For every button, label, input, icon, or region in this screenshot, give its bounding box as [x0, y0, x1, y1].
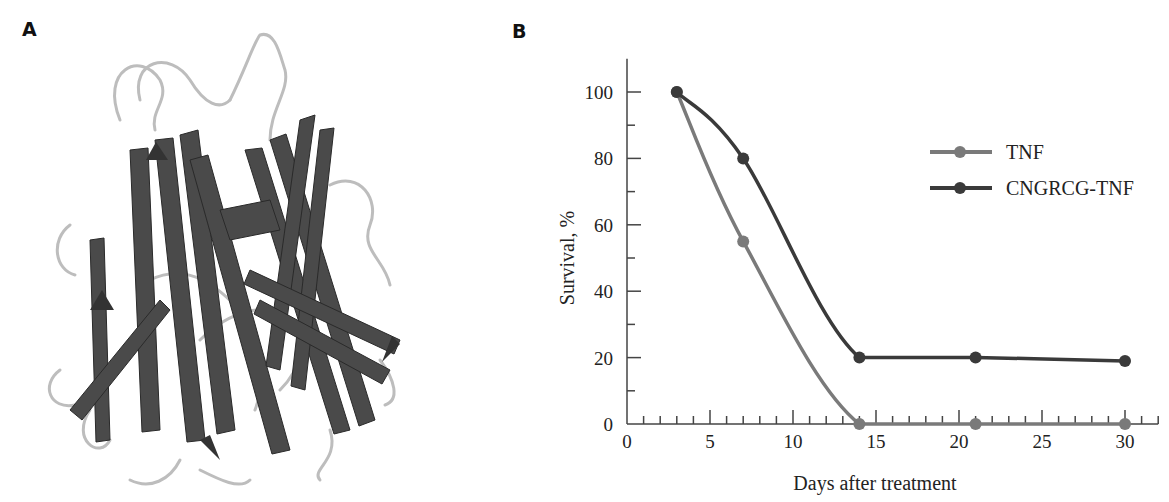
x-tick-label: 10 — [784, 431, 803, 452]
x-tick-label: 30 — [1116, 431, 1135, 452]
legend-marker — [954, 146, 966, 158]
data-point — [737, 152, 749, 164]
y-tick-label: 40 — [594, 281, 613, 302]
data-point — [853, 418, 865, 430]
y-tick-label: 80 — [594, 148, 613, 169]
survival-chart: 051015202530020406080100 Days after trea… — [540, 40, 1169, 502]
x-tick-label: 20 — [950, 431, 969, 452]
panel-label-b: B — [512, 20, 526, 42]
y-tick-label: 60 — [594, 215, 613, 236]
x-axis-title: Days after treatment — [793, 472, 957, 495]
legend-label: TNF — [1006, 141, 1044, 163]
data-series — [671, 86, 1131, 430]
data-point — [853, 352, 865, 364]
y-tick-label: 100 — [585, 82, 614, 103]
x-tick-label: 0 — [622, 431, 632, 452]
protein-structure-image — [30, 10, 420, 500]
data-point — [1119, 355, 1131, 367]
legend-label: CNGRCG-TNF — [1006, 177, 1134, 199]
x-tick-label: 25 — [1033, 431, 1052, 452]
x-tick-label: 5 — [705, 431, 715, 452]
series-cngrcg-tnf — [671, 86, 1131, 367]
data-point — [970, 418, 982, 430]
y-tick-label: 20 — [594, 348, 613, 369]
data-point — [737, 235, 749, 247]
data-point — [1119, 418, 1131, 430]
y-axis-title: Survival, % — [556, 211, 578, 305]
legend-marker — [954, 182, 966, 194]
tick-labels: 051015202530020406080100 — [585, 82, 1135, 452]
series-tnf — [671, 86, 1131, 430]
data-point — [970, 352, 982, 364]
x-tick-label: 15 — [867, 431, 886, 452]
chart-legend: TNFCNGRCG-TNF — [930, 141, 1134, 199]
y-tick-label: 0 — [604, 414, 614, 435]
data-point — [671, 86, 683, 98]
